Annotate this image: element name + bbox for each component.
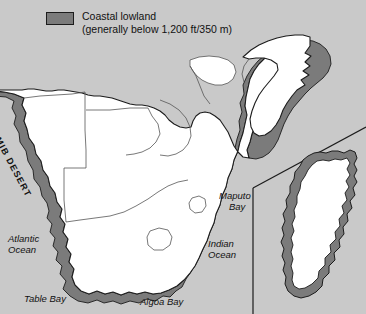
legend-line-2: (generally below 1,200 ft/350 m) [82,23,232,36]
legend-line-1: Coastal lowland [82,10,232,23]
label-atlantic-ocean-line2: Ocean [8,244,36,255]
label-indian-ocean-line1: Indian [208,238,234,249]
legend-text: Coastal lowland (generally below 1,200 f… [82,10,232,35]
label-atlantic-ocean: Atlantic Ocean [8,233,39,255]
map-figure: Coastal lowland (generally below 1,200 f… [0,0,366,314]
map-canvas [0,0,366,314]
legend: Coastal lowland (generally below 1,200 f… [46,10,232,35]
coastal-lowland-swatch [46,12,74,25]
label-maputo-bay: Maputo Bay [219,190,251,212]
mainland-landmass [0,35,311,295]
label-indian-ocean: Indian Ocean [208,238,236,260]
label-table-bay: Table Bay [24,293,66,304]
label-atlantic-ocean-line1: Atlantic [8,233,39,244]
label-indian-ocean-line2: Ocean [208,249,236,260]
madagascar-inset-layer [281,150,357,298]
north-inland-lobe [190,56,236,85]
label-maputo-bay-line1: Maputo [219,190,251,201]
label-maputo-bay-line2: Bay [219,201,251,212]
label-algoa-bay: Algoa Bay [140,296,183,307]
mainland-land-fill [0,50,303,295]
